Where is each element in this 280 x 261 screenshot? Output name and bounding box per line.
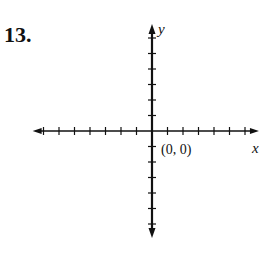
y-axis-label: y [156, 21, 165, 37]
origin-label: (0, 0) [161, 142, 192, 158]
axes [33, 24, 259, 238]
coordinate-plane: y x (0, 0) [0, 0, 280, 261]
x-axis-label: x [251, 140, 259, 156]
